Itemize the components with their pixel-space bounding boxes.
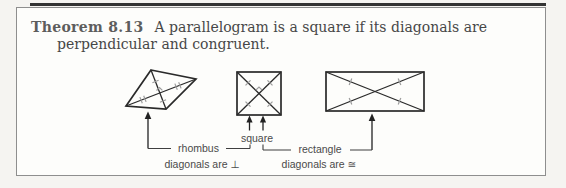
rectangle-up-arrow-icon <box>369 114 376 151</box>
arrow-head <box>369 114 376 122</box>
square-up-arrow-right-icon <box>260 116 266 131</box>
square-up-arrow-left-icon <box>246 116 252 131</box>
right-angle-mark <box>256 87 262 90</box>
rhombus-up-arrow-icon <box>145 112 152 149</box>
rhombus-figure <box>126 70 196 109</box>
rectangle-figure <box>326 72 424 111</box>
rhombus-diagonal-short <box>151 70 166 109</box>
theorem-panel: Theorem 8.13A parallelogram is a square … <box>0 0 566 188</box>
rectangle-note: diagonals are ≅ <box>282 158 357 170</box>
square-label: square <box>241 132 273 144</box>
square-figure <box>237 72 281 115</box>
arrow-head <box>246 116 252 123</box>
arrow-head <box>145 112 152 120</box>
rectangle-label: rectangle <box>298 143 341 155</box>
arrow-head <box>260 116 266 123</box>
rhombus-label: rhombus <box>178 142 219 154</box>
rhombus-note: diagonals are ⊥ <box>164 158 239 170</box>
theorem-diagram: square rhombus rectangle diagonals are ⊥… <box>0 0 566 188</box>
